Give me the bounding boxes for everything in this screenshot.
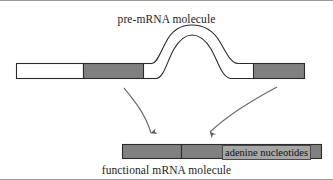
segment-exon-1-coding <box>84 64 144 79</box>
splice-arrows <box>124 87 277 133</box>
segment-mrna-coding-1 <box>123 145 182 159</box>
adenine-nucleotides-label: adenine nucleotides <box>222 145 311 160</box>
intron-loop-outer-rail <box>152 25 253 64</box>
pre-mrna-caption: pre-mRNA molecule <box>0 13 333 25</box>
segment-5prime-untranslated <box>17 64 84 79</box>
segment-exon-2-coding <box>254 64 305 79</box>
splice-arrow-left <box>124 88 151 133</box>
pre-mrna-bar <box>17 25 305 79</box>
rna-splicing-diagram: pre-mRNA molecule adenine nucleotides fu… <box>0 0 333 180</box>
intron-loop-inner-rail <box>156 35 253 79</box>
splice-arrow-right <box>210 87 277 132</box>
functional-mrna-caption: functional mRNA molecule <box>0 164 333 176</box>
